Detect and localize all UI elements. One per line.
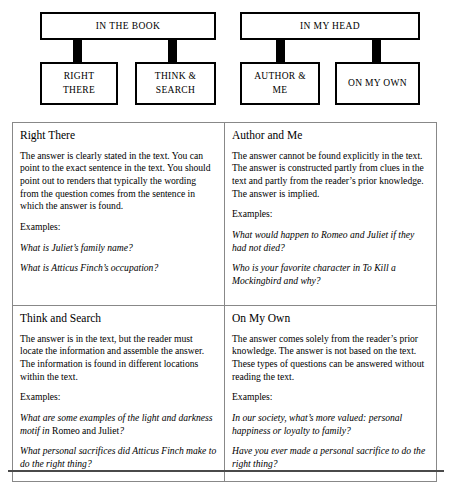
example-item: In our society, what’s more valued: pers… bbox=[232, 412, 429, 437]
qar-flowchart: IN THE BOOK RIGHT THERE THINK & SEARCH I… bbox=[0, 0, 452, 118]
flowchart-node-label-line1: RIGHT bbox=[64, 70, 95, 84]
flowchart-node-on-my-own: ON MY OWN bbox=[335, 62, 420, 105]
flowchart-node-think-and-search: THINK & SEARCH bbox=[135, 62, 216, 105]
example-item: What would happen to Romeo and Juliet if… bbox=[232, 229, 429, 254]
examples-label: Examples: bbox=[232, 208, 429, 221]
examples-label: Examples: bbox=[20, 391, 217, 404]
cell-body: The answer cannot be found explicitly in… bbox=[232, 150, 429, 201]
table-cell-author-and-me: Author and Me The answer cannot be found… bbox=[225, 123, 437, 306]
flowchart-node-label-line2: SEARCH bbox=[156, 84, 195, 98]
flowchart-node-label: IN THE BOOK bbox=[96, 21, 160, 31]
examples-label: Examples: bbox=[232, 391, 429, 404]
flowchart-node-label-line2: ME bbox=[273, 84, 288, 98]
examples-label: Examples: bbox=[20, 221, 217, 234]
example-item: Have you ever made a personal sacrifice … bbox=[232, 445, 429, 470]
flowchart-node-label-line2: THERE bbox=[63, 84, 95, 98]
table-row: Right There The answer is clearly stated… bbox=[13, 123, 437, 306]
example-text-post: ? bbox=[119, 425, 124, 436]
flowchart-node-label-line1: AUTHOR & bbox=[254, 70, 306, 84]
connector-in-my-head-to-on-my-own bbox=[372, 40, 381, 62]
cell-body: The answer comes solely from the reader’… bbox=[232, 333, 429, 384]
cell-title: Author and Me bbox=[232, 129, 429, 143]
cell-body: The answer is in the text, but the reade… bbox=[20, 333, 217, 384]
table-cell-right-there: Right There The answer is clearly stated… bbox=[13, 123, 225, 306]
flowchart-node-in-the-book: IN THE BOOK bbox=[40, 12, 216, 40]
example-item: Who is your favorite character in To Kil… bbox=[232, 262, 429, 287]
page-bottom-rule bbox=[8, 470, 444, 472]
example-item: What is Juliet’s family name? bbox=[20, 242, 217, 255]
table-cell-on-my-own: On My Own The answer comes solely from t… bbox=[225, 306, 437, 482]
cell-title: Think and Search bbox=[20, 312, 217, 326]
cell-title: Right There bbox=[20, 129, 217, 143]
connector-in-the-book-to-think-and-search bbox=[168, 40, 177, 62]
example-item: What is Atticus Finch’s occupation? bbox=[20, 262, 217, 275]
example-text-upright: Romeo bbox=[52, 425, 80, 436]
cell-title: On My Own bbox=[232, 312, 429, 326]
table-cell-think-and-search: Think and Search The answer is in the te… bbox=[13, 306, 225, 482]
qar-description-table: Right There The answer is clearly stated… bbox=[12, 122, 437, 482]
flowchart-node-author-and-me: AUTHOR & ME bbox=[240, 62, 320, 105]
flowchart-node-right-there: RIGHT THERE bbox=[40, 62, 118, 105]
connector-in-the-book-to-right-there bbox=[73, 40, 82, 62]
example-item: What personal sacrifices did Atticus Fin… bbox=[20, 445, 217, 470]
example-item: What are some examples of the light and … bbox=[20, 412, 217, 437]
flowchart-node-label: IN MY HEAD bbox=[300, 21, 360, 31]
flowchart-node-label-line1: THINK & bbox=[155, 70, 196, 84]
example-text-mid: and Juliet bbox=[80, 425, 119, 436]
connector-in-my-head-to-author-and-me bbox=[276, 40, 285, 62]
flowchart-node-in-my-head: IN MY HEAD bbox=[240, 12, 420, 40]
table-row: Think and Search The answer is in the te… bbox=[13, 306, 437, 482]
cell-body: The answer is clearly stated in the text… bbox=[20, 150, 217, 213]
flowchart-node-label-line1: ON MY OWN bbox=[348, 77, 407, 91]
